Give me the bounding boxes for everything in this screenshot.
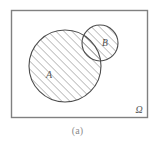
set-a-label: A: [45, 69, 53, 80]
venn-diagram-figure: A B Ω (a): [0, 0, 155, 155]
set-b-label: B: [102, 38, 108, 48]
universe-label: Ω: [135, 104, 142, 115]
figure-caption: (a): [0, 124, 155, 138]
